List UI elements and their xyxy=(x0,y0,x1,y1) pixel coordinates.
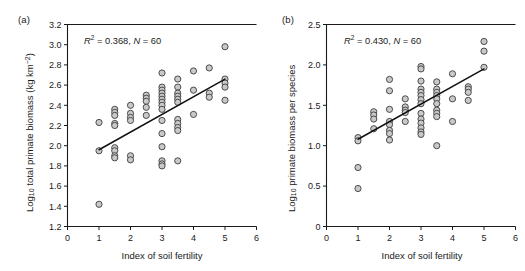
data-point xyxy=(96,201,102,207)
panel-b-y-ticks: 00.51.01.52.02.5 xyxy=(308,20,327,232)
panel-a-x-ticks: 0123456 xyxy=(65,227,259,243)
data-point xyxy=(159,70,165,76)
data-point xyxy=(355,164,361,170)
data-point xyxy=(175,158,181,164)
panel-a-y-ticks: 1.21.41.61.82.02.22.42.62.83.03.2 xyxy=(49,20,68,232)
a-y-tick-label: 2.4 xyxy=(49,101,62,111)
b-x-tick-label: 6 xyxy=(513,233,518,243)
b-y-tick-label: 2.0 xyxy=(308,60,321,70)
data-point xyxy=(481,38,487,44)
panel-a-plot: 1.21.41.61.82.02.22.42.62.83.03.2 012345… xyxy=(0,0,265,271)
data-point xyxy=(159,130,165,136)
data-point xyxy=(190,87,196,93)
b-x-tick-label: 3 xyxy=(418,233,423,243)
data-point xyxy=(434,114,440,120)
data-point xyxy=(143,98,149,104)
data-point xyxy=(386,130,392,136)
data-point xyxy=(418,78,424,84)
data-point xyxy=(434,101,440,107)
data-point xyxy=(175,76,181,82)
data-point xyxy=(159,144,165,150)
a-x-tick-label: 2 xyxy=(128,233,133,243)
data-point xyxy=(127,117,133,123)
a-x-tick-label: 4 xyxy=(191,233,196,243)
b-x-tick-label: 4 xyxy=(450,233,455,243)
a-x-tick-label: 6 xyxy=(254,233,259,243)
figure-root: (a) Log10 total primate biomass (kg km−2… xyxy=(0,0,525,271)
a-y-tick-label: 1.8 xyxy=(49,161,62,171)
data-point xyxy=(402,96,408,102)
a-y-tick-label: 3.2 xyxy=(49,20,62,30)
panel-b: (b) Log10 primate biomass per species In… xyxy=(260,0,525,271)
a-x-tick-label: 5 xyxy=(222,233,227,243)
b-y-tick-label: 0.5 xyxy=(308,181,321,191)
a-y-tick-label: 3.0 xyxy=(49,40,62,50)
panel-b-data-points xyxy=(355,38,487,191)
data-point xyxy=(159,106,165,112)
data-point xyxy=(112,122,118,128)
a-x-tick-label: 0 xyxy=(65,233,70,243)
data-point xyxy=(112,155,118,161)
data-point xyxy=(449,71,455,77)
data-point xyxy=(386,106,392,112)
data-point xyxy=(190,111,196,117)
data-point xyxy=(449,96,455,102)
data-point xyxy=(159,163,165,169)
b-x-tick-label: 5 xyxy=(481,233,486,243)
data-point xyxy=(96,119,102,125)
panel-a-axis-frame xyxy=(68,25,257,227)
b-y-tick-label: 1.5 xyxy=(308,101,321,111)
a-y-tick-label: 2.2 xyxy=(49,121,62,131)
data-point xyxy=(481,48,487,54)
data-point xyxy=(434,143,440,149)
data-point xyxy=(386,137,392,143)
data-point xyxy=(206,65,212,71)
b-y-tick-label: 2.5 xyxy=(308,20,321,30)
panel-b-annotation: R2 = 0.430, N = 60 xyxy=(344,34,421,46)
b-y-tick-label: 0 xyxy=(315,222,320,232)
b-x-tick-label: 1 xyxy=(355,233,360,243)
data-point xyxy=(143,104,149,110)
panel-b-plot: 00.51.01.52.02.5 0123456 R2 = 0.430, N =… xyxy=(260,0,525,271)
data-point xyxy=(222,97,228,103)
data-point xyxy=(386,76,392,82)
a-y-tick-label: 1.6 xyxy=(49,181,62,191)
data-point xyxy=(371,116,377,122)
panel-a-annotation: R2 = 0.368, N = 60 xyxy=(84,34,161,46)
a-y-tick-label: 2.0 xyxy=(49,141,62,151)
data-point xyxy=(175,84,181,90)
data-point xyxy=(112,112,118,118)
data-point xyxy=(222,44,228,50)
b-x-tick-label: 2 xyxy=(387,233,392,243)
data-point xyxy=(127,102,133,108)
data-point xyxy=(159,117,165,123)
data-point xyxy=(143,112,149,118)
a-y-tick-label: 2.6 xyxy=(49,80,62,90)
data-point xyxy=(386,88,392,94)
panel-a-data-points xyxy=(96,44,228,208)
data-point xyxy=(222,84,228,90)
data-point xyxy=(127,157,133,163)
data-point xyxy=(465,97,471,103)
b-x-tick-label: 0 xyxy=(324,233,329,243)
a-y-tick-label: 1.4 xyxy=(49,202,62,212)
data-point xyxy=(418,131,424,137)
a-x-tick-label: 3 xyxy=(159,233,164,243)
a-y-tick-label: 2.8 xyxy=(49,60,62,70)
data-point xyxy=(449,118,455,124)
a-x-tick-label: 1 xyxy=(96,233,101,243)
data-point xyxy=(465,89,471,95)
b-y-tick-label: 1.0 xyxy=(308,141,321,151)
data-point xyxy=(190,68,196,74)
data-point xyxy=(402,118,408,124)
data-point xyxy=(434,79,440,85)
panel-b-x-ticks: 0123456 xyxy=(324,227,518,243)
data-point xyxy=(206,94,212,100)
a-y-tick-label: 1.2 xyxy=(49,222,62,232)
panel-a: (a) Log10 total primate biomass (kg km−2… xyxy=(0,0,265,271)
data-point xyxy=(175,127,181,133)
data-point xyxy=(418,66,424,72)
data-point xyxy=(355,185,361,191)
